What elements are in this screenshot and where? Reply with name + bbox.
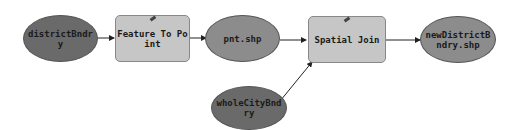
node-new-district-bndry[interactable]: newDistrictB ndry.shp: [420, 16, 496, 63]
node-label: pnt.shp: [224, 34, 262, 44]
node-district-bndry[interactable]: districtBndr y: [23, 15, 98, 62]
node-feature-to-point[interactable]: Feature To Point: [115, 15, 190, 62]
node-pnt-shp[interactable]: pnt.shp: [205, 15, 280, 62]
node-label: Feature To Point: [116, 29, 189, 49]
node-spatial-join[interactable]: Spatial Join: [308, 16, 386, 63]
node-whole-city-bndry[interactable]: wholeCityBnd ry: [211, 86, 287, 130]
node-label: Spatial Join: [314, 35, 379, 45]
node-label: newDistrictB ndry.shp: [421, 30, 495, 50]
tool-hammer-icon: [149, 16, 156, 22]
tool-hammer-icon: [344, 17, 351, 23]
node-label: wholeCityBnd ry: [212, 98, 286, 118]
node-label: districtBndr y: [24, 29, 97, 49]
